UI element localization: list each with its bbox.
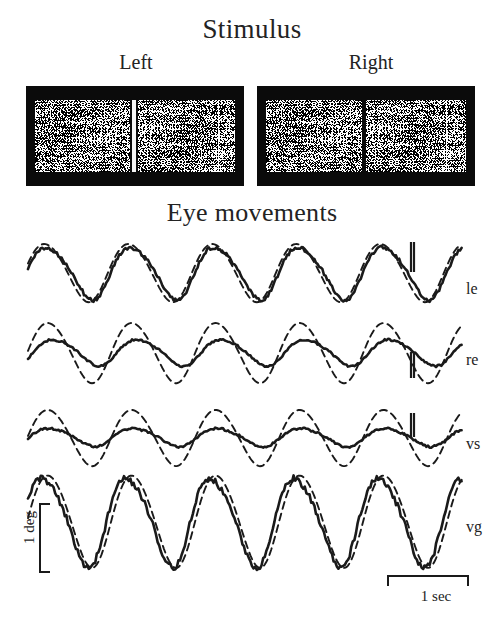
trace-label-re: re [466, 352, 502, 368]
artifact-spike-vs [411, 413, 414, 437]
stimulus-right-label: Right [326, 52, 416, 72]
stimulus-divider-right [363, 100, 365, 172]
stimulus-panel-left [26, 86, 244, 186]
trace-group-re [28, 323, 462, 383]
random-dot-field-right-b [366, 100, 466, 172]
random-dot-field-left-a [35, 100, 130, 172]
random-dot-field-right-a [266, 100, 362, 172]
stimulus-panel-right [257, 86, 475, 186]
trace-label-vg: vg [466, 519, 502, 535]
trace-group-vs [28, 410, 462, 466]
trace-label-vs: vs [466, 436, 502, 452]
trace-label-le: le [466, 281, 502, 297]
figure-root: Stimulus Left Right Eye movements le re … [0, 0, 504, 622]
dashed-reference-re [28, 323, 462, 383]
solid-measured-le [28, 246, 462, 302]
traces-svg [0, 228, 504, 578]
vertical-scale-bar: 1 deg [6, 500, 52, 576]
trace-group-vg [28, 475, 462, 570]
scale-bracket-icon [36, 502, 52, 574]
stimulus-divider-left [132, 100, 136, 172]
vertical-scale-label: 1 deg [22, 491, 37, 565]
eye-movements-title: Eye movements [0, 200, 504, 226]
horizontal-scale-bar: 1 sec [386, 572, 490, 616]
artifact-spike-le [411, 242, 414, 272]
solid-measured-vs [28, 428, 462, 448]
eye-movement-traces [0, 228, 504, 578]
horizontal-scale-label: 1 sec [386, 589, 486, 604]
random-dot-field-left-b [138, 100, 235, 172]
dashed-reference-le [28, 244, 462, 302]
stimulus-title: Stimulus [0, 16, 504, 43]
trace-group-le [28, 242, 462, 302]
stimulus-left-label: Left [96, 52, 176, 72]
scale-bracket-icon [386, 572, 486, 588]
solid-measured-vg [28, 475, 462, 570]
